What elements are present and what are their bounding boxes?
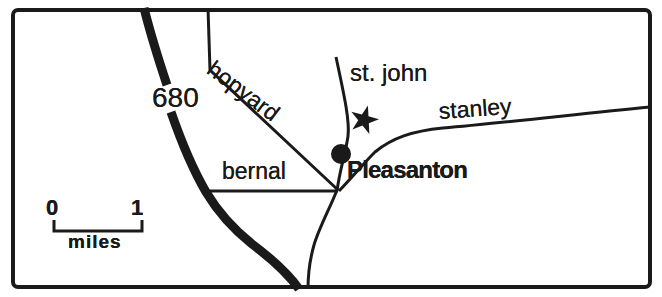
freeway-680-upper-segment (144, 8, 167, 85)
label-freeway-680: 680 (152, 84, 199, 112)
label-city-pleasanton: Pleasanton (347, 158, 467, 182)
scale-end-label: 1 (131, 197, 143, 219)
label-road-st-john: st. john (350, 61, 427, 85)
map-canvas (0, 0, 662, 297)
scale-bar (54, 220, 142, 231)
scale-unit-label: miles (68, 232, 122, 251)
scale-start-label: 0 (46, 197, 58, 219)
road-south (308, 190, 337, 289)
pleasanton-road-map: 680 hopyard st. john stanley bernal Plea… (0, 0, 662, 297)
label-road-stanley: stanley (438, 95, 512, 123)
label-road-bernal: bernal (222, 160, 286, 183)
star-icon (347, 102, 382, 136)
freeway-680-lower-segment (171, 112, 299, 289)
